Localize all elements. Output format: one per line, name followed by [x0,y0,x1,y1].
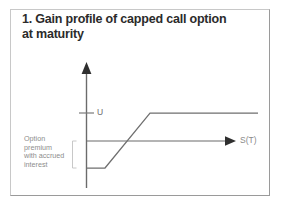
x-axis-label: S(T) [240,135,257,145]
cap-level-label: U [97,107,103,117]
figure-page: 1. Gain profile of capped call option at… [0,0,285,211]
chart-plot-area [0,0,285,211]
x-axis-arrowhead-icon [225,136,236,145]
premium-annotation-label: Option premium with accrued interest [24,135,70,169]
payoff-chart-svg [0,0,285,211]
y-axis-arrowhead-icon [82,62,92,74]
premium-bracket [73,141,77,168]
